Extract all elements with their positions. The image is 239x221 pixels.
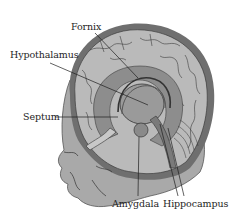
amygdala-structure: [134, 123, 148, 137]
label-amygdala: Amygdala: [112, 199, 159, 209]
label-hypothalamus: Hypothalamus: [10, 50, 79, 60]
limbic-system-diagram: Fornix Hypothalamus Septum Amygdala Hipp…: [0, 0, 239, 221]
label-fornix: Fornix: [71, 22, 101, 32]
label-septum: Septum: [23, 112, 60, 122]
label-hippocampus: Hippocampus: [163, 199, 228, 209]
